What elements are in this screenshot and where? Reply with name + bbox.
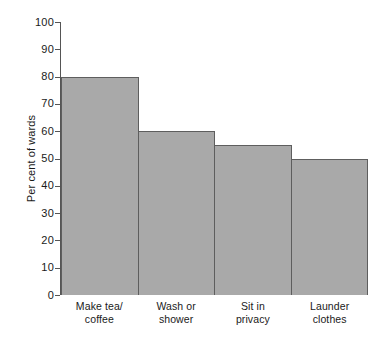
x-axis-category-label-line: coffee: [61, 313, 138, 326]
y-axis-tick-label: 80: [28, 71, 54, 82]
y-axis-tick-label: 70: [28, 98, 54, 109]
y-axis-tick-mark: [55, 295, 60, 296]
y-axis-tick-labels: 0102030405060708090100: [26, 0, 54, 345]
y-axis-tick-label: 90: [28, 44, 54, 55]
x-axis-category-label: Launderclothes: [291, 300, 368, 326]
x-axis-category-label: Make tea/coffee: [61, 300, 138, 326]
y-axis-tick-label: 40: [28, 180, 54, 191]
bar-series: [61, 22, 368, 295]
x-axis-category-label-line: clothes: [291, 313, 368, 326]
x-axis-category-label-line: privacy: [215, 313, 292, 326]
x-axis-category-label-line: Wash or: [138, 300, 215, 313]
bar: [291, 159, 369, 296]
y-axis-tick-label: 20: [28, 235, 54, 246]
plot-area: [60, 22, 368, 295]
y-axis-tick-label: 100: [28, 17, 54, 28]
y-axis-tick-label: 30: [28, 208, 54, 219]
bar: [61, 77, 139, 295]
y-axis-tick-label: 0: [28, 290, 54, 301]
x-axis-category-label-line: Launder: [291, 300, 368, 313]
y-axis-tick-label: 60: [28, 126, 54, 137]
y-axis-tick-label: 10: [28, 262, 54, 273]
bar-chart: Per cent of wards 0102030405060708090100…: [0, 0, 380, 345]
x-axis-category-label: Sit inprivacy: [215, 300, 292, 326]
x-axis-category-label: Wash orshower: [138, 300, 215, 326]
bar: [138, 131, 216, 295]
y-axis-tick-label: 50: [28, 153, 54, 164]
x-axis-category-label-line: Make tea/: [61, 300, 138, 313]
x-axis-category-labels: Make tea/coffeeWash orshowerSit inprivac…: [61, 300, 368, 326]
x-axis-category-label-line: shower: [138, 313, 215, 326]
bar: [214, 145, 292, 295]
x-axis-category-label-line: Sit in: [215, 300, 292, 313]
